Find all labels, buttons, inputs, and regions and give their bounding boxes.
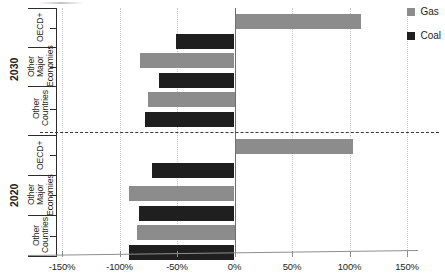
- bar-2030-oecd--coal: [176, 34, 235, 49]
- year-group-divider: [40, 132, 439, 133]
- legend-item-gas[interactable]: Gas: [407, 6, 441, 17]
- x-axis-tick: [350, 251, 351, 257]
- crop-artifact: [38, 2, 84, 4]
- x-axis-tick-label: -150%: [49, 261, 75, 272]
- x-axis-tick-label: 50%: [283, 261, 301, 272]
- x-axis-tick: [62, 251, 63, 257]
- x-axis-tick: [235, 251, 236, 257]
- x-axis-tick-label: 0%: [228, 261, 241, 272]
- x-axis-tick: [177, 251, 178, 257]
- legend-swatch-gas-icon: [407, 8, 415, 16]
- x-axis-tick: [407, 251, 408, 257]
- y-axis-category-label-oecd-: OECD+: [30, 136, 52, 174]
- x-axis-tick: [292, 251, 293, 257]
- bar-2020-other-major-economies-coal: [139, 206, 234, 221]
- bar-2030-other-countries-gas: [148, 92, 234, 107]
- bar-2030-other-major-economies-gas: [140, 53, 234, 68]
- bar-2030-other-major-economies-coal: [159, 73, 235, 88]
- legend-label-coal: Coal: [420, 30, 441, 41]
- x-axis-tick-label: -50%: [166, 261, 187, 272]
- legend: Gas Coal: [407, 6, 441, 41]
- bar-2020-other-major-economies-gas: [129, 186, 235, 201]
- bar-2020-oecd--gas: [235, 139, 353, 154]
- x-axis-tick-label: 150%: [395, 261, 419, 272]
- bar-2030-oecd--gas: [235, 14, 362, 29]
- legend-label-gas: Gas: [420, 6, 438, 17]
- y-axis-category-label-other-countries: Other Countries: [30, 216, 52, 255]
- y-axis-group-label-2020: 2020: [6, 135, 22, 256]
- bar-chart: OECD+Other Major EconomiesOther Countrie…: [0, 0, 445, 277]
- x-axis-tick: [120, 251, 121, 257]
- x-axis-tick-label: -100%: [106, 261, 132, 272]
- x-axis-tick-label: 100%: [338, 261, 362, 272]
- legend-swatch-coal-icon: [407, 32, 415, 40]
- y-axis-category-label-other-countries: Other Countries: [30, 87, 52, 130]
- y-axis-category-label-other-major-economies: Other Major Economies: [30, 176, 52, 214]
- bar-2020-oecd--coal: [152, 163, 235, 178]
- y-axis-category-label-oecd-: OECD+: [30, 9, 52, 46]
- y-axis-group-label-2030: 2030: [6, 8, 22, 131]
- legend-item-coal[interactable]: Coal: [407, 30, 441, 41]
- y-axis-category-separator: [28, 256, 57, 257]
- bar-2030-other-countries-coal: [145, 112, 235, 127]
- y-axis-category-label-other-major-economies: Other Major Economies: [30, 48, 52, 85]
- bar-2020-other-countries-gas: [137, 225, 235, 240]
